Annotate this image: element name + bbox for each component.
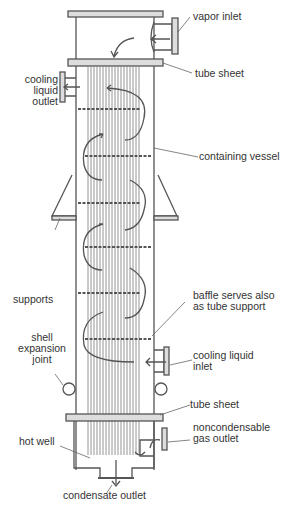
label-cooling-liquid-inlet: cooling liquid inlet <box>193 350 254 372</box>
label-shell-expansion-joint: shell expansion joint <box>14 332 70 365</box>
label-supports: supports <box>13 294 53 305</box>
label-line: as tube support <box>193 301 275 312</box>
label-noncondensable-gas-outlet: noncondensable gas outlet <box>193 422 270 444</box>
label-line: inlet <box>193 361 254 372</box>
label-line: outlet <box>10 96 58 107</box>
label-hot-well: hot well <box>19 436 55 447</box>
label-condensate-outlet: condensate outlet <box>63 490 146 501</box>
label-line: joint <box>14 354 70 365</box>
label-containing-vessel: containing vessel <box>199 151 280 162</box>
label-vapor-inlet: vapor inlet <box>193 11 241 22</box>
label-baffle: baffle serves also as tube support <box>193 290 275 312</box>
label-cooling-liquid-outlet: cooling liquid outlet <box>10 74 58 107</box>
label-line: gas outlet <box>193 433 270 444</box>
label-tube-sheet-top: tube sheet <box>195 68 244 79</box>
label-tube-sheet-bottom: tube sheet <box>190 399 239 410</box>
